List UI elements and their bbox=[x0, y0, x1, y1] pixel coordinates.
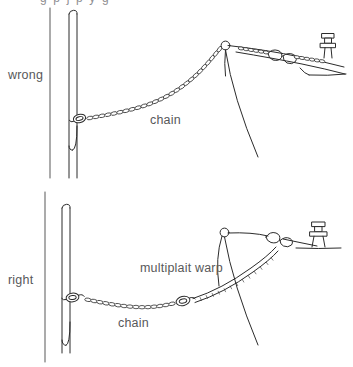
shackle-right bbox=[175, 295, 195, 307]
chain-links-right bbox=[84, 298, 175, 309]
mooring-post-wrong bbox=[50, 8, 77, 178]
label-chain-wrong: chain bbox=[150, 113, 181, 127]
mooring-ring-right bbox=[62, 292, 85, 302]
label-chain-right: chain bbox=[118, 316, 149, 330]
mooring-post-right bbox=[45, 192, 70, 362]
panel-right-side-label: right bbox=[8, 273, 34, 287]
mooring-comparison-figure: wrong bbox=[0, 0, 353, 367]
anchor-line-right bbox=[225, 237, 259, 345]
chain-rode-wrong bbox=[85, 46, 225, 121]
panel-wrong-side-label: wrong bbox=[7, 68, 43, 82]
label-multiplait-warp-right: multiplait warp bbox=[140, 261, 223, 275]
chain-rode-right bbox=[84, 298, 175, 309]
bow-roller-right bbox=[220, 228, 229, 237]
panel-right: right bbox=[8, 192, 341, 362]
mooring-ring-wrong bbox=[69, 113, 86, 124]
mooring-bollard-right bbox=[310, 222, 327, 247]
anchor-line-wrong bbox=[226, 50, 259, 157]
chain-links-wrong bbox=[86, 46, 222, 121]
mooring-bollard-wrong bbox=[321, 34, 336, 59]
panel-wrong: wrong bbox=[7, 8, 346, 178]
